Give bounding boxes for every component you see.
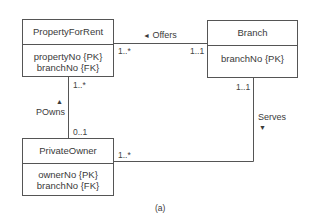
triangle-down-icon: ▼ [259,123,266,133]
association-name: Offers [152,30,176,40]
class-branch: Branch branchNo {PK} [207,20,298,78]
multiplicity-offers-branch: 1..1 [190,46,204,56]
attribute: propertyNo {PK} [23,51,113,62]
triangle-left-icon: ◄ [143,32,150,39]
serves-line [114,78,254,162]
figure-caption: (a) [155,203,165,213]
attribute: ownerNo {PK} [23,169,113,180]
class-attributes: branchNo {PK} [208,53,297,64]
multiplicity-serves-branch: 1..1 [236,82,250,92]
class-private-owner: PrivateOwner ownerNo {PK} branchNo {FK} [22,138,114,196]
multiplicity-offers-property: 1..* [118,46,131,56]
multiplicity-powns-property: 1..* [73,80,86,90]
class-name: PrivateOwner [23,139,113,164]
multiplicity-serves-owner: 1..* [118,150,131,160]
multiplicity-powns-owner: 0..1 [73,127,87,137]
powns-label: POwns [36,107,65,117]
uml-class-diagram: PropertyForRent propertyNo {PK} branchNo… [0,0,314,220]
class-name: PropertyForRent [23,20,113,45]
class-name: Branch [208,21,297,46]
attribute: branchNo {PK} [208,53,297,64]
attribute: branchNo {FK} [23,62,113,73]
offers-label: ◄ Offers [143,30,177,41]
serves-label: Serves [258,112,286,122]
class-attributes: propertyNo {PK} branchNo {FK} [23,51,113,73]
triangle-up-icon: ▲ [56,97,63,107]
class-property-for-rent: PropertyForRent propertyNo {PK} branchNo… [22,19,114,77]
attribute: branchNo {FK} [23,180,113,191]
class-attributes: ownerNo {PK} branchNo {FK} [23,169,113,191]
